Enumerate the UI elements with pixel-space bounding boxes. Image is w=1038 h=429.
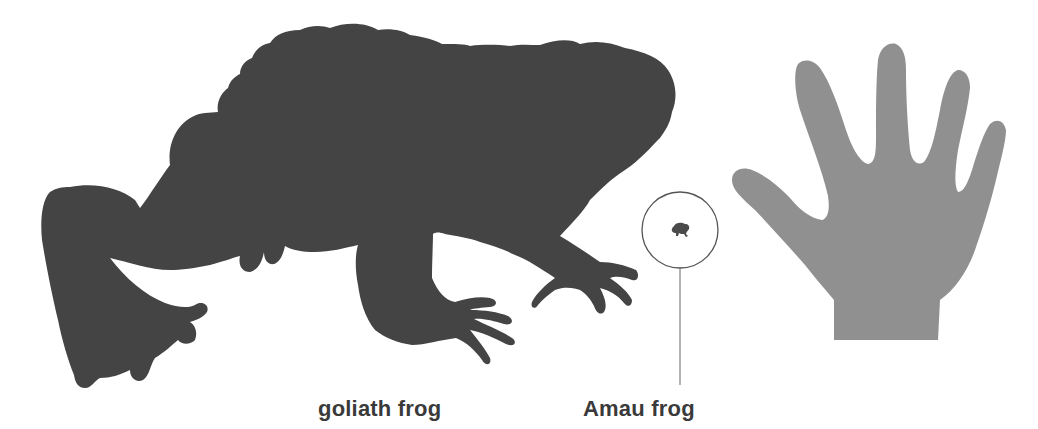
goliath-frog-label: goliath frog (318, 396, 441, 422)
size-comparison-figure: goliath frog Amau frog (0, 0, 1038, 429)
human-hand-icon (732, 44, 1006, 340)
goliath-frog-icon (41, 24, 675, 388)
amau-frog-icon (672, 223, 690, 237)
amau-frog-label: Amau frog (583, 396, 695, 422)
amau-callout (642, 192, 718, 385)
figure-canvas (0, 0, 1038, 429)
